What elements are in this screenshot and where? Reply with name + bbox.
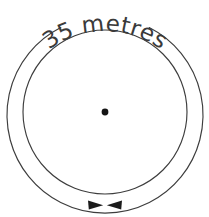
circle-diagram-canvas: 35 metres	[0, 0, 209, 217]
measurement-label-textpath: 35 metres	[38, 10, 173, 54]
outer-circle-arc	[7, 28, 203, 213]
centre-point-dot	[102, 109, 109, 116]
left-arrowhead-icon	[88, 201, 103, 210]
measurement-label: 35 metres	[38, 10, 173, 54]
right-arrowhead-icon	[107, 201, 122, 210]
measure-arrowheads-group	[88, 201, 122, 210]
circle-diagram-svg: 35 metres	[0, 0, 209, 217]
